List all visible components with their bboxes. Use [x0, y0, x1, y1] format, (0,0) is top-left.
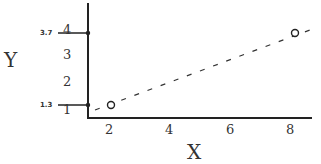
y-tick-2: 2 — [63, 74, 71, 89]
chart-canvas — [0, 0, 321, 164]
axis-tick-dot — [86, 103, 90, 107]
x-tick-8: 8 — [286, 122, 294, 137]
annotation-1-3: 1.3 — [40, 101, 52, 109]
x-tick-2: 2 — [105, 122, 113, 137]
y-tick-3: 3 — [63, 47, 71, 62]
data-point-open-circle — [108, 102, 115, 109]
axis-tick-dot — [86, 31, 90, 35]
dashed-trend-line — [95, 30, 310, 110]
y-tick-4: 4 — [63, 22, 71, 37]
y-tick-1: 1 — [63, 102, 71, 117]
x-tick-6: 6 — [226, 122, 234, 137]
y-axis-title: Y — [4, 48, 17, 72]
x-tick-4: 4 — [165, 122, 173, 137]
data-point-open-circle — [292, 30, 299, 37]
x-axis-title: X — [187, 140, 201, 164]
annotation-3-7: 3.7 — [40, 29, 52, 37]
